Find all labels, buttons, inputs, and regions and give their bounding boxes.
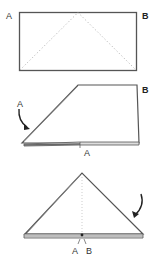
label-b-step2: B — [142, 86, 149, 95]
label-b-step1: B — [142, 12, 149, 21]
step-3-triangle — [24, 173, 143, 244]
label-a-step3: A — [72, 247, 78, 256]
label-b-step3: B — [86, 247, 92, 256]
folding-diagram: A B A B A A B — [0, 0, 161, 273]
curved-arrow-icon — [19, 109, 27, 127]
label-a-arrow-step2: A — [17, 100, 23, 109]
curved-arrow-icon — [135, 194, 142, 215]
label-a-inner-step2: A — [84, 149, 90, 158]
step-2-folded-shape — [19, 85, 139, 148]
label-a-step1: A — [6, 12, 12, 21]
step-1-rectangle — [20, 13, 137, 71]
diagram-drawing — [0, 0, 161, 273]
